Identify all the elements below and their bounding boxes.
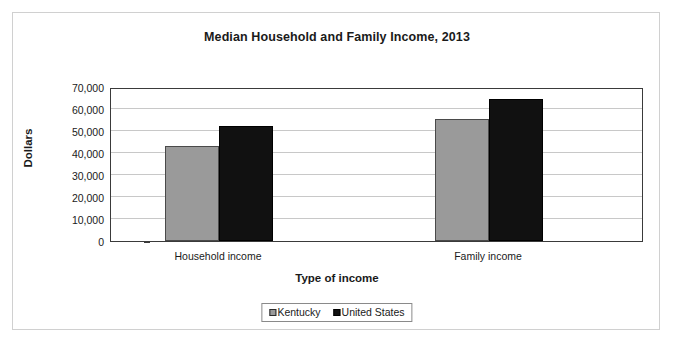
legend-entry: Kentucky: [269, 306, 320, 318]
legend-label: United States: [342, 306, 405, 318]
legend-swatch-icon: [334, 309, 341, 316]
y-axis-tick-label: 60,000: [40, 104, 104, 116]
y-axis-tick-label: 30,000: [40, 170, 104, 182]
x-axis-title: Type of income: [0, 272, 674, 284]
y-axis-title: Dollars: [22, 98, 34, 198]
legend-label: Kentucky: [277, 306, 320, 318]
y-axis-tick-label: 10,000: [40, 214, 104, 226]
gridline: [111, 130, 642, 131]
bar-united-states-family-income: [489, 99, 543, 241]
chart-title: Median Household and Family Income, 2013: [0, 30, 674, 44]
plot-area: [110, 88, 643, 242]
bar-kentucky-household-income: [165, 146, 219, 241]
y-axis-tick-label: 0: [40, 236, 104, 248]
x-axis-tick-label: Household income: [175, 250, 262, 262]
x-axis-tick-label: Family income: [454, 250, 522, 262]
y-axis-tick-labels: 010,00020,00030,00040,00050,00060,00070,…: [40, 88, 104, 242]
y-axis-tick-label: 40,000: [40, 148, 104, 160]
chart-legend: KentuckyUnited States: [261, 303, 412, 322]
bar-kentucky-family-income: [435, 119, 489, 241]
gridline: [111, 108, 642, 109]
bar-united-states-household-income: [219, 126, 273, 242]
legend-swatch-icon: [269, 309, 276, 316]
y-axis-tick-mark: [144, 242, 150, 243]
y-axis-tick-label: 20,000: [40, 192, 104, 204]
y-axis-tick-label: 70,000: [40, 82, 104, 94]
legend-entry: United States: [334, 306, 405, 318]
chart-figure: Median Household and Family Income, 2013…: [0, 0, 674, 343]
y-axis-tick-label: 50,000: [40, 126, 104, 138]
